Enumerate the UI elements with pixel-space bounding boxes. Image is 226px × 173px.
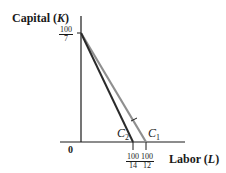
- y-axis-var: K: [57, 11, 65, 25]
- c2-main: C: [117, 126, 125, 140]
- x-axis-title-text: Labor (: [169, 152, 208, 166]
- c1-sub: 1: [156, 133, 160, 142]
- c1-main: C: [148, 126, 156, 140]
- y-tick-label: 100 7: [59, 26, 73, 43]
- x-tick-label-100-14: 100 14: [126, 153, 140, 170]
- curve-label-c1: C1: [148, 126, 160, 142]
- x-axis-title-close: ): [215, 152, 219, 166]
- x-tick1-denominator: 14: [126, 162, 140, 170]
- y-axis-title: Capital (K): [12, 11, 69, 26]
- x-tick2-denominator: 12: [140, 162, 154, 170]
- isocost-line-c1: [81, 33, 146, 142]
- c2-sub: 2: [125, 133, 129, 142]
- curve-label-c2: C2: [117, 126, 129, 142]
- origin-label: 0: [68, 144, 73, 155]
- y-axis-title-close: ): [65, 11, 69, 25]
- y-axis-title-text: Capital (: [12, 11, 57, 25]
- x-axis-title: Labor (L): [169, 152, 219, 167]
- x-tick-label-100-12: 100 12: [140, 153, 154, 170]
- y-tick-denominator: 7: [59, 35, 73, 43]
